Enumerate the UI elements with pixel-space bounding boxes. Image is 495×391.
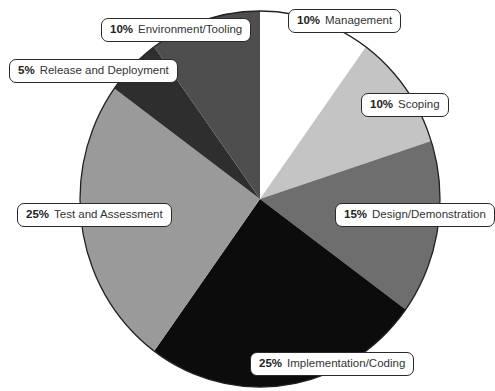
label-pct: 15% xyxy=(344,208,367,220)
label-pct: 10% xyxy=(297,14,320,26)
label-text: Test and Assessment xyxy=(54,208,163,220)
label-pct: 25% xyxy=(259,357,282,369)
label-implementation-coding: 25%Implementation/Coding xyxy=(250,352,414,376)
label-text: Release and Deployment xyxy=(40,64,169,76)
label-release-and-deployment: 5%Release and Deployment xyxy=(9,59,178,83)
label-test-and-assessment: 25%Test and Assessment xyxy=(17,203,172,227)
label-pct: 25% xyxy=(26,208,49,220)
label-text: Environment/Tooling xyxy=(138,23,242,35)
label-management: 10%Management xyxy=(288,9,401,33)
label-scoping: 10%Scoping xyxy=(361,93,449,117)
label-design-demonstration: 15%Design/Demonstration xyxy=(335,203,495,227)
label-text: Management xyxy=(325,14,392,26)
label-environment-tooling: 10%Environment/Tooling xyxy=(101,18,251,42)
label-pct: 5% xyxy=(18,64,35,76)
label-pct: 10% xyxy=(370,98,393,110)
label-pct: 10% xyxy=(110,23,133,35)
label-text: Implementation/Coding xyxy=(287,357,405,369)
label-text: Scoping xyxy=(398,98,440,110)
label-text: Design/Demonstration xyxy=(372,208,486,220)
